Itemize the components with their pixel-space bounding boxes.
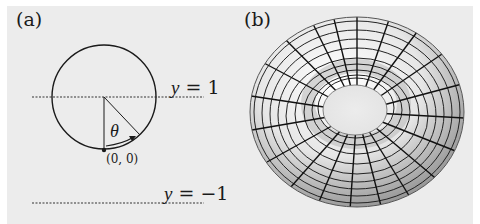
label-y-var: y [171, 77, 179, 98]
label-y-eq: = −1 [178, 182, 228, 204]
origin-label: (0, 0) [106, 152, 138, 166]
torus-hole [323, 85, 387, 135]
label-y-equals-1: y = 1 [171, 76, 220, 99]
label-y-equals-minus-1: y = −1 [164, 182, 228, 205]
angle-theta-label: θ [110, 121, 119, 142]
panel-a-diagram [0, 0, 480, 224]
panel-b-label: (b) [244, 8, 271, 30]
label-y-eq: = 1 [185, 76, 219, 98]
label-y-var: y [164, 183, 172, 204]
